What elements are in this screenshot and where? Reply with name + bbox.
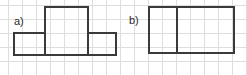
figure-a-top-edge-bottom-left-cell xyxy=(13,32,45,34)
figure-a-label: a) xyxy=(14,16,24,27)
figure-a-divider-right xyxy=(87,32,89,55)
figure-a-bottom-edge-row xyxy=(13,54,117,56)
grid-line-vertical-2 xyxy=(36,0,37,75)
grid-line-horizontal-3 xyxy=(0,47,247,48)
figure-a-top-edge-upper-square xyxy=(44,6,89,8)
grid-line-vertical-5 xyxy=(78,0,79,75)
figure-a-divider-left xyxy=(44,32,46,55)
figure-b-left-edge xyxy=(148,6,150,53)
background-grid xyxy=(0,0,247,75)
grid-line-vertical-1 xyxy=(22,0,23,75)
figure-b-bottom-edge xyxy=(148,52,235,54)
grid-line-horizontal-4 xyxy=(0,61,247,62)
grid-line-vertical-4 xyxy=(64,0,65,75)
figure-b-right-edge xyxy=(233,6,235,53)
figure-a-top-edge-bottom-right-cell xyxy=(87,32,117,34)
figure-b-top-edge xyxy=(148,6,235,8)
grid-line-vertical-17 xyxy=(246,0,247,75)
grid-line-vertical-9 xyxy=(134,0,135,75)
grid-line-vertical-7 xyxy=(106,0,107,75)
grid-line-vertical-8 xyxy=(120,0,121,75)
figure-a-left-edge-upper-square xyxy=(44,6,46,34)
worksheet-canvas: a) b) xyxy=(0,0,247,75)
grid-line-vertical-15 xyxy=(218,0,219,75)
figure-a-right-edge-upper-square xyxy=(87,6,89,34)
grid-line-vertical-6 xyxy=(92,0,93,75)
grid-line-vertical-14 xyxy=(204,0,205,75)
figure-b-divider xyxy=(176,6,178,53)
grid-line-vertical-13 xyxy=(190,0,191,75)
grid-line-vertical-0 xyxy=(8,0,9,75)
figure-b-label: b) xyxy=(129,15,139,26)
grid-line-vertical-3 xyxy=(50,0,51,75)
grid-line-vertical-11 xyxy=(162,0,163,75)
figure-a-right-edge-row xyxy=(115,32,117,55)
grid-line-horizontal-1 xyxy=(0,19,247,20)
figure-a-left-edge-row xyxy=(13,32,15,55)
